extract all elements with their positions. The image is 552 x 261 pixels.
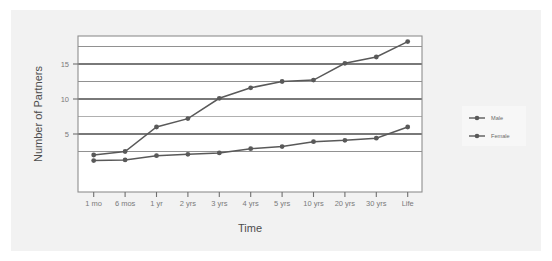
- plot-area-background: [78, 36, 422, 192]
- x-tick-label: 4 yrs: [243, 199, 260, 208]
- x-tick-label: 6 mos: [115, 199, 136, 208]
- figure-canvas: 15 10 5 Number of Partners 1 mo: [0, 0, 552, 261]
- line-marker-icon: [475, 134, 480, 139]
- x-tick-label: 5 yrs: [274, 199, 291, 208]
- line-chart: 15 10 5 Number of Partners 1 mo: [11, 10, 541, 251]
- data-point[interactable]: [311, 78, 316, 83]
- data-point[interactable]: [280, 144, 285, 149]
- data-point[interactable]: [217, 96, 222, 101]
- data-point[interactable]: [374, 55, 379, 60]
- x-axis-title: Time: [238, 222, 262, 234]
- data-point[interactable]: [91, 158, 96, 163]
- data-point[interactable]: [405, 39, 410, 44]
- data-point[interactable]: [123, 158, 128, 163]
- data-point[interactable]: [343, 61, 348, 66]
- legend: Male Female: [462, 106, 526, 146]
- data-point[interactable]: [248, 85, 253, 90]
- x-tick-label: 1 yr: [150, 199, 163, 208]
- data-point[interactable]: [154, 125, 159, 130]
- data-point[interactable]: [405, 125, 410, 130]
- x-tick-label: Life: [402, 199, 414, 208]
- data-point[interactable]: [186, 116, 191, 121]
- x-tick-label: 30 yrs: [366, 199, 387, 208]
- data-point[interactable]: [311, 139, 316, 144]
- x-tick-label: 10 yrs: [303, 199, 324, 208]
- x-axis-ticks: [94, 192, 408, 197]
- x-tick-label: 20 yrs: [335, 199, 356, 208]
- data-point[interactable]: [91, 153, 96, 158]
- y-tick-label: 15: [61, 60, 69, 69]
- data-point[interactable]: [343, 138, 348, 143]
- data-point[interactable]: [154, 153, 159, 158]
- x-axis-tick-labels: 1 mo 6 mos 1 yr 2 yrs 3 yrs 4 yrs 5 yrs …: [85, 199, 413, 208]
- data-point[interactable]: [280, 79, 285, 84]
- x-tick-label: 2 yrs: [180, 199, 197, 208]
- legend-item-label: Female: [491, 133, 510, 139]
- y-axis-ticks: [73, 64, 78, 134]
- x-tick-label: 3 yrs: [211, 199, 228, 208]
- y-tick-label: 5: [65, 130, 69, 139]
- data-point[interactable]: [123, 149, 128, 154]
- y-axis-title: Number of Partners: [32, 66, 44, 162]
- chart-card: 15 10 5 Number of Partners 1 mo: [11, 10, 541, 251]
- data-point[interactable]: [248, 146, 253, 151]
- line-marker-icon: [475, 116, 480, 121]
- data-point[interactable]: [186, 152, 191, 157]
- data-point[interactable]: [217, 151, 222, 156]
- x-tick-label: 1 mo: [85, 199, 102, 208]
- legend-item-label: Male: [491, 115, 503, 121]
- legend-background: [462, 106, 526, 146]
- y-tick-label: 10: [61, 95, 69, 104]
- data-point[interactable]: [374, 136, 379, 141]
